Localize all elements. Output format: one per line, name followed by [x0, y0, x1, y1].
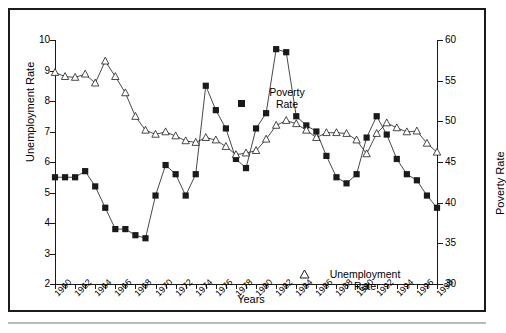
marker-filled-square [213, 107, 219, 113]
marker-open-triangle [81, 70, 88, 77]
marker-open-triangle [162, 128, 169, 135]
marker-filled-square [273, 46, 279, 52]
right-tick-label: 60 [445, 35, 475, 45]
marker-open-triangle [272, 121, 279, 128]
marker-open-triangle [393, 124, 400, 131]
marker-filled-square [92, 183, 98, 189]
marker-open-triangle [92, 79, 99, 86]
series-line-unemployment-rate [55, 61, 437, 155]
marker-open-triangle [323, 129, 330, 136]
marker-open-triangle [353, 136, 360, 143]
marker-filled-square [283, 49, 289, 55]
marker-filled-square [384, 131, 390, 137]
right-tick-label: 40 [445, 198, 475, 208]
marker-open-triangle [172, 132, 179, 139]
annotation-unemployment-line2: Rate [313, 280, 417, 292]
marker-filled-square [253, 125, 259, 131]
left-axis-title: Unemployment Rate [24, 62, 36, 162]
marker-filled-square [424, 192, 430, 198]
annotation-unemployment-rate: Unemployment Rate [313, 268, 417, 292]
marker-filled-square [293, 113, 299, 119]
open-triangle-icon [299, 269, 310, 279]
x-axis-title: Years [0, 293, 502, 305]
data-series-layer [55, 40, 438, 285]
annotation-poverty-line2: Rate [251, 98, 323, 110]
marker-filled-square [173, 171, 179, 177]
marker-filled-square [263, 110, 269, 116]
marker-filled-square [132, 232, 138, 238]
marker-filled-square [162, 162, 168, 168]
marker-filled-square [203, 83, 209, 89]
marker-filled-square [142, 235, 148, 241]
left-tick-label: 5 [20, 188, 50, 198]
right-tick-mark [438, 162, 443, 163]
marker-open-triangle [102, 57, 109, 64]
marker-open-triangle [182, 137, 189, 144]
marker-filled-square [434, 205, 440, 211]
left-tick-label: 4 [20, 218, 50, 228]
annotation-unemployment-line1: Unemployment [313, 268, 417, 280]
right-tick-label: 45 [445, 157, 475, 167]
marker-filled-square [323, 153, 329, 159]
left-tick-label: 10 [20, 35, 50, 45]
right-tick-mark [438, 81, 443, 82]
figure-frame: 2345678910 30354045505560 19601962196419… [8, 8, 486, 312]
marker-filled-square [343, 180, 349, 186]
right-tick-mark [438, 243, 443, 244]
marker-filled-square [364, 135, 370, 141]
right-axis-title: Poverty Rate [494, 151, 506, 215]
marker-filled-square [243, 165, 249, 171]
marker-filled-square [193, 171, 199, 177]
left-tick-label: 2 [20, 279, 50, 289]
marker-open-triangle [413, 127, 420, 134]
plot-area: 2345678910 30354045505560 19601962196419… [55, 40, 438, 285]
marker-filled-square [82, 168, 88, 174]
annotation-poverty-rate: Poverty Rate [251, 86, 323, 110]
left-tick-label: 3 [20, 249, 50, 259]
right-tick-mark [438, 121, 443, 122]
marker-filled-square [333, 174, 339, 180]
marker-filled-square [414, 177, 420, 183]
marker-filled-square [394, 156, 400, 162]
marker-filled-square [152, 192, 158, 198]
marker-open-triangle [333, 129, 340, 136]
marker-filled-square [72, 174, 78, 180]
marker-filled-square [183, 192, 189, 198]
right-tick-label: 35 [445, 238, 475, 248]
filled-square-icon [237, 99, 246, 108]
marker-open-triangle [112, 73, 119, 80]
marker-filled-square [353, 171, 359, 177]
marker-open-triangle [132, 112, 139, 119]
right-tick-label: 55 [445, 76, 475, 86]
right-tick-mark [438, 40, 443, 41]
marker-filled-square [374, 113, 380, 119]
marker-open-triangle [202, 134, 209, 141]
marker-open-triangle [61, 73, 68, 80]
marker-filled-square [223, 125, 229, 131]
marker-filled-square [404, 171, 410, 177]
marker-open-triangle [122, 89, 129, 96]
right-tick-label: 50 [445, 116, 475, 126]
marker-filled-square [62, 174, 68, 180]
marker-open-triangle [283, 117, 290, 124]
marker-open-triangle [222, 143, 229, 150]
footer-rule [8, 322, 486, 324]
marker-filled-square [112, 226, 118, 232]
marker-filled-square [102, 205, 108, 211]
marker-open-triangle [433, 148, 440, 155]
marker-open-triangle [383, 119, 390, 126]
right-tick-mark [438, 203, 443, 204]
marker-filled-square [122, 226, 128, 232]
marker-filled-square [52, 174, 58, 180]
annotation-poverty-line1: Poverty [251, 86, 323, 98]
